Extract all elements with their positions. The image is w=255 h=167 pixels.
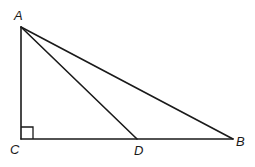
label-c: C bbox=[10, 142, 20, 157]
triangle-diagram: A C D B bbox=[0, 0, 255, 167]
label-a: A bbox=[13, 8, 23, 23]
label-b: B bbox=[236, 134, 245, 149]
segment-ad bbox=[21, 27, 137, 139]
segment-ab bbox=[21, 27, 233, 139]
right-angle-marker-icon bbox=[21, 127, 33, 139]
label-d: D bbox=[134, 143, 143, 158]
